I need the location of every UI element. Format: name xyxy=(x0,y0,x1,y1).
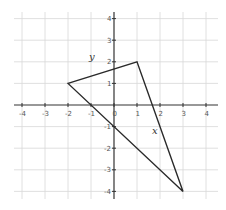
x-tick-label: 2 xyxy=(159,110,163,118)
x-axis-label: x xyxy=(152,125,158,136)
y-tick-label: -1 xyxy=(104,123,111,131)
x-tick-label: -3 xyxy=(42,110,49,118)
x-tick-label: 4 xyxy=(205,110,210,118)
y-tick-label: 2 xyxy=(107,58,111,66)
x-tick-label: -2 xyxy=(65,110,72,118)
coordinate-plane: -4-3-2-101234-4-3-2-11234 x y xyxy=(0,0,226,210)
y-tick-label: -2 xyxy=(104,145,111,153)
y-tick-label: -4 xyxy=(104,188,112,196)
x-tick-label: 3 xyxy=(182,110,186,118)
y-axis-label: y xyxy=(88,51,95,62)
x-tick-label: -1 xyxy=(88,110,95,118)
y-tick-label: -3 xyxy=(104,166,111,174)
y-tick-label: 3 xyxy=(107,37,111,45)
y-tick-label: 1 xyxy=(107,80,111,88)
y-tick-label: 4 xyxy=(107,15,112,23)
x-tick-label: 0 xyxy=(113,110,117,118)
x-tick-label: -4 xyxy=(19,110,27,118)
x-tick-label: 1 xyxy=(136,110,140,118)
